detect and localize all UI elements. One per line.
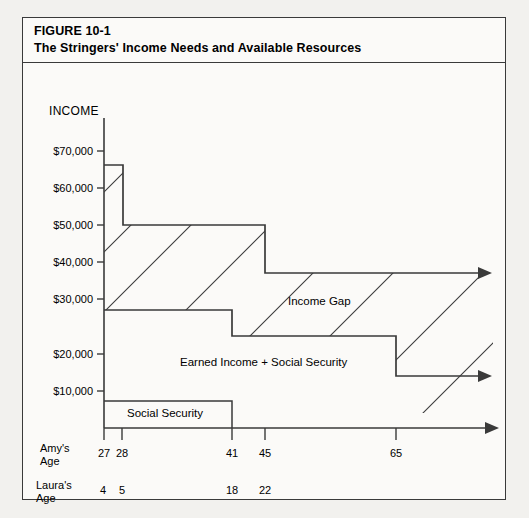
income-needs-line — [104, 165, 478, 273]
y-tick-label-60000: $60,000 — [23, 182, 93, 194]
y-tick-label-40000: $40,000 — [23, 256, 93, 268]
y-tick-label-30000: $30,000 — [23, 293, 93, 305]
income-needs-arrowhead — [478, 267, 492, 279]
lauras-age-tick-18: 18 — [222, 484, 242, 496]
amys-age-label-line2: Age — [40, 455, 60, 467]
lauras-age-tick-22: 22 — [255, 484, 275, 496]
amys-age-row-label: Amy's Age — [40, 442, 70, 468]
region-label-earned-income: Earned Income + Social Security — [180, 356, 347, 368]
income-gap-hatching-tail — [323, 213, 505, 499]
figure-number: FIGURE 10-1 — [34, 23, 505, 40]
income-gap-hatching — [23, 93, 505, 499]
y-tick-label-10000: $10,000 — [23, 385, 93, 397]
y-tick-label-70000: $70,000 — [23, 145, 93, 157]
lauras-age-label-line2: Age — [36, 492, 56, 504]
earned-income-arrowhead — [478, 370, 492, 382]
figure-title-bar: FIGURE 10-1 The Stringers' Income Needs … — [23, 18, 505, 63]
lauras-age-label-line1: Laura's — [36, 479, 72, 491]
lauras-age-row-label: Laura's Age — [36, 479, 72, 505]
region-label-income-gap: Income Gap — [288, 295, 351, 307]
amys-age-tick-41: 41 — [222, 447, 242, 459]
amys-age-tick-65: 65 — [386, 447, 406, 459]
amys-age-label-line1: Amy's — [40, 442, 70, 454]
y-tick-label-20000: $20,000 — [23, 348, 93, 360]
y-tick-label-50000: $50,000 — [23, 219, 93, 231]
region-label-social-security: Social Security — [127, 407, 203, 419]
amys-age-tick-27: 27 — [94, 447, 114, 459]
amys-age-tick-45: 45 — [255, 447, 275, 459]
x-axis-arrowhead — [485, 422, 499, 434]
lauras-age-tick-4: 4 — [95, 484, 111, 496]
chart-svg — [23, 63, 505, 499]
chart-plot-area: INCOME $70,000 $60,000 $50,000 $40,000 $… — [23, 63, 505, 499]
x-axis-ticks — [104, 428, 396, 440]
y-axis-title: INCOME — [49, 105, 99, 117]
figure-frame: FIGURE 10-1 The Stringers' Income Needs … — [22, 17, 506, 500]
amys-age-tick-28: 28 — [112, 447, 132, 459]
lauras-age-tick-5: 5 — [114, 484, 130, 496]
y-axis-ticks — [97, 151, 104, 391]
figure-title: The Stringers' Income Needs and Availabl… — [34, 40, 505, 57]
